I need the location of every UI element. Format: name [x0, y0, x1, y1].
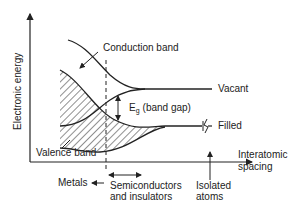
vacant-label: Vacant: [218, 83, 249, 94]
conduction-band-label: Conduction band: [103, 42, 179, 53]
y-axis-label: Electronic energy: [12, 53, 23, 130]
axis-break-icon: [203, 119, 208, 133]
x-axis-label-line1: Interatomic: [238, 149, 287, 160]
valence-band-label: Valence band: [36, 147, 96, 158]
filled-label: Filled: [218, 120, 242, 131]
band-gap-label: Eg(band gap): [129, 102, 191, 115]
semiconductors-label-line2: and insulators: [110, 191, 172, 202]
x-axis-label-line2: spacing: [238, 161, 272, 172]
isolated-atoms-label-line2: atoms: [196, 191, 223, 202]
isolated-atoms-label-line1: Isolated: [196, 180, 231, 191]
metals-label: Metals: [58, 177, 87, 188]
semiconductors-label-line1: Semiconductors: [110, 180, 182, 191]
band-diagram: Electronic energy Vacant Filled Conducti…: [0, 0, 299, 210]
